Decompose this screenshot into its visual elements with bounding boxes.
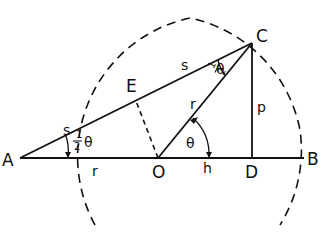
label-O: O (152, 162, 165, 182)
half-denominator-A: 2 (74, 141, 80, 152)
label-B: B (307, 149, 319, 169)
label-r-radius: r (190, 96, 196, 112)
label-theta-O: θ (186, 135, 195, 151)
label-p: p (257, 99, 266, 115)
label-half-theta-A: θ (84, 134, 93, 150)
dashed-circle (78, 18, 302, 225)
label-s-upper: s (181, 57, 188, 73)
label-D: D (245, 162, 258, 182)
label-half-theta-C: θ (216, 61, 225, 77)
half-numerator-A: 1 (76, 129, 82, 140)
label-A: A (2, 150, 14, 170)
label-s-lower: s (63, 122, 70, 138)
angle-arc-O (193, 118, 209, 157)
label-r-base: r (92, 163, 98, 179)
label-h: h (203, 160, 212, 176)
line-OE (136, 101, 158, 158)
line-OC (158, 43, 252, 158)
geometry-diagram: A E O C D B s s r r p h θ 1 2 θ 1 2 θ (0, 0, 327, 236)
label-C: C (256, 26, 268, 46)
label-E: E (126, 76, 137, 96)
